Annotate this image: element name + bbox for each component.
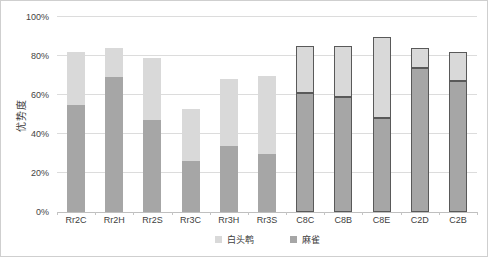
- bar-c8c-segment-1: [296, 46, 314, 93]
- bar-rr3s: [258, 17, 276, 212]
- y-tick-label-20: 20%: [31, 169, 49, 178]
- bar-rr3s-segment-0: [258, 154, 276, 213]
- x-label-rr2h: Rr2H: [104, 215, 125, 225]
- bar-c2d-segment-0: [411, 68, 429, 212]
- bar-rr2c-segment-0: [67, 105, 85, 212]
- bar-rr2h-segment-1: [105, 48, 123, 77]
- x-label-rr3h: Rr3H: [218, 215, 239, 225]
- x-label-rr2c: Rr2C: [66, 215, 87, 225]
- legend-swatch-icon: [215, 236, 222, 243]
- bar-rr2s-segment-0: [143, 120, 161, 212]
- bar-rr2h: [105, 17, 123, 212]
- bar-rr3c-segment-1: [182, 109, 200, 162]
- x-label-c2d: C2D: [411, 215, 429, 225]
- x-axis-tick-mark: [477, 212, 478, 215]
- legend-item-0: 白头鹎: [215, 233, 254, 246]
- bar-rr3h-segment-1: [220, 79, 238, 145]
- bar-rr3c: [182, 17, 200, 212]
- bar-c2b-segment-1: [449, 52, 467, 81]
- y-tick-label-100: 100%: [26, 13, 49, 22]
- bar-c2b: [449, 17, 467, 212]
- bar-rr2s: [143, 17, 161, 212]
- x-label-c2b: C2B: [449, 215, 467, 225]
- legend-swatch-icon: [290, 236, 297, 243]
- chart-figure: 优势度 0%20%40%60%80%100% Rr2CRr2HRr2SRr3CR…: [0, 0, 488, 257]
- bar-c8e: [373, 17, 391, 212]
- bar-rr3s-segment-1: [258, 76, 276, 154]
- x-axis-labels: Rr2CRr2HRr2SRr3CRr3HRr3SC8CC8BC8EC2DC2B: [57, 215, 477, 227]
- y-axis-ticks: 0%20%40%60%80%100%: [1, 17, 53, 212]
- bar-c8c-segment-0: [296, 93, 314, 212]
- x-label-c8c: C8C: [296, 215, 314, 225]
- y-tick-label-40: 40%: [31, 130, 49, 139]
- y-tick-label-0: 0%: [36, 208, 49, 217]
- legend-item-1: 麻雀: [290, 233, 320, 246]
- legend: 白头鹎麻雀: [57, 233, 477, 246]
- bar-rr2c-segment-1: [67, 52, 85, 105]
- x-label-rr3c: Rr3C: [180, 215, 201, 225]
- x-label-c8e: C8E: [373, 215, 391, 225]
- plot-area: [57, 17, 477, 213]
- y-tick-label-60: 60%: [31, 91, 49, 100]
- bar-c2d-segment-1: [411, 48, 429, 68]
- legend-label-0: 白头鹎: [227, 233, 254, 246]
- legend-label-1: 麻雀: [302, 233, 320, 246]
- y-tick-label-80: 80%: [31, 52, 49, 61]
- bar-c8e-segment-0: [373, 118, 391, 212]
- x-label-rr3s: Rr3S: [257, 215, 278, 225]
- bar-rr2c: [67, 17, 85, 212]
- bar-c2d: [411, 17, 429, 212]
- bar-c8b: [334, 17, 352, 212]
- bar-rr3c-segment-0: [182, 161, 200, 212]
- x-label-c8b: C8B: [335, 215, 353, 225]
- bar-c2b-segment-0: [449, 81, 467, 212]
- x-label-rr2s: Rr2S: [142, 215, 163, 225]
- bar-c8b-segment-1: [334, 46, 352, 97]
- bar-c8c: [296, 17, 314, 212]
- bar-rr3h: [220, 17, 238, 212]
- bar-rr2h-segment-0: [105, 77, 123, 212]
- bar-c8e-segment-1: [373, 37, 391, 119]
- bar-rr2s-segment-1: [143, 58, 161, 120]
- bar-c8b-segment-0: [334, 97, 352, 212]
- bar-rr3h-segment-0: [220, 146, 238, 212]
